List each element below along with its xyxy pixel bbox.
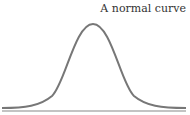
normal-curve xyxy=(2,24,186,108)
normal-curve-diagram xyxy=(0,0,190,115)
